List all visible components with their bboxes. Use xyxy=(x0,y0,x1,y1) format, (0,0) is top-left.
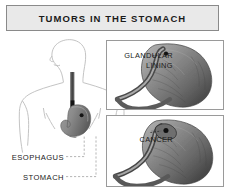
cancer-marker-dot xyxy=(163,128,168,133)
stomach-organ xyxy=(61,105,91,137)
leader-lines xyxy=(66,136,96,177)
tumor-marker-dot xyxy=(80,113,84,117)
panel-glandular-lining: GLANDULAR LINING xyxy=(106,40,224,110)
label-cancer: CANCER xyxy=(111,135,173,145)
tumors-in-the-stomach-figure: TUMORS IN THE STOMACH xyxy=(0,0,227,192)
leader-line-esophagus xyxy=(66,136,84,157)
panel-cancer: CANCER xyxy=(106,115,224,187)
head-outline xyxy=(50,40,86,83)
label-stomach: STOMACH xyxy=(2,173,64,182)
esophagus-organ xyxy=(71,72,75,108)
label-glandular-lining: GLANDULAR LINING xyxy=(111,51,173,70)
cancer-illustration xyxy=(107,116,223,186)
label-esophagus: ESOPHAGUS xyxy=(2,153,64,162)
